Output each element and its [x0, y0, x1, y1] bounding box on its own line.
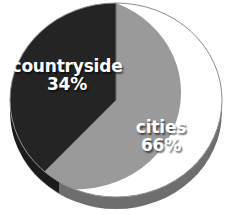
pie-chart: countryside 34% cities 66% — [0, 0, 235, 222]
pie-chart-graphic — [0, 0, 235, 222]
